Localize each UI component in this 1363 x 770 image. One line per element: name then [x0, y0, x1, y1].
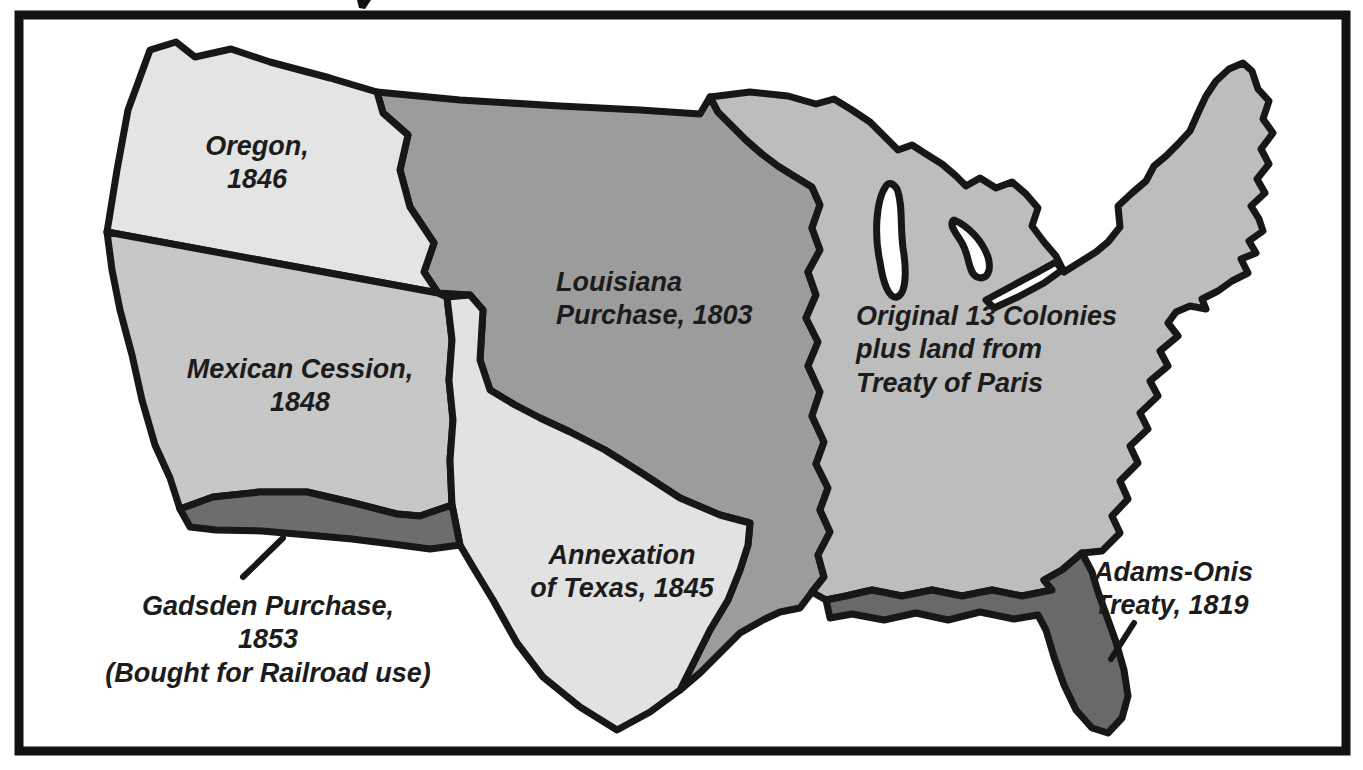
label-line: 1846 — [205, 163, 309, 196]
label-line: 1853 — [105, 623, 431, 656]
label-line: (Bought for Railroad use) — [105, 657, 431, 690]
label-gadsden-purchase: Gadsden Purchase, 1853 (Bought for Railr… — [105, 590, 431, 690]
label-line: Original 13 Colonies — [856, 300, 1117, 333]
label-annexation-of-texas: Annexation of Texas, 1845 — [530, 539, 714, 606]
label-louisiana-purchase: Louisiana Purchase, 1803 — [556, 266, 753, 333]
label-line: 1848 — [187, 386, 414, 419]
label-line: Oregon, — [205, 130, 309, 163]
label-line: of Texas, 1845 — [530, 572, 714, 605]
label-oregon: Oregon, 1846 — [205, 130, 309, 197]
label-line: Annexation — [530, 539, 714, 572]
label-line: Gadsden Purchase, — [105, 590, 431, 623]
lake-michigan-shape — [877, 184, 906, 298]
label-adams-onis-treaty: Adams-Onis Treaty, 1819 — [1094, 556, 1253, 623]
label-original-13-colonies: Original 13 Colonies plus land from Trea… — [856, 300, 1117, 400]
stray-ink-mark — [357, 0, 371, 9]
label-line: Mexican Cession, — [187, 353, 414, 386]
label-line: Purchase, 1803 — [556, 299, 753, 332]
us-territorial-acquisitions-figure: Oregon, 1846 Louisiana Purchase, 1803 Me… — [0, 0, 1363, 770]
label-mexican-cession: Mexican Cession, 1848 — [187, 353, 414, 420]
label-line: Louisiana — [556, 266, 753, 299]
label-line: Adams-Onis — [1094, 556, 1253, 589]
label-line: Treaty, 1819 — [1094, 589, 1253, 622]
label-line: Treaty of Paris — [856, 367, 1117, 400]
label-line: plus land from — [856, 333, 1117, 366]
